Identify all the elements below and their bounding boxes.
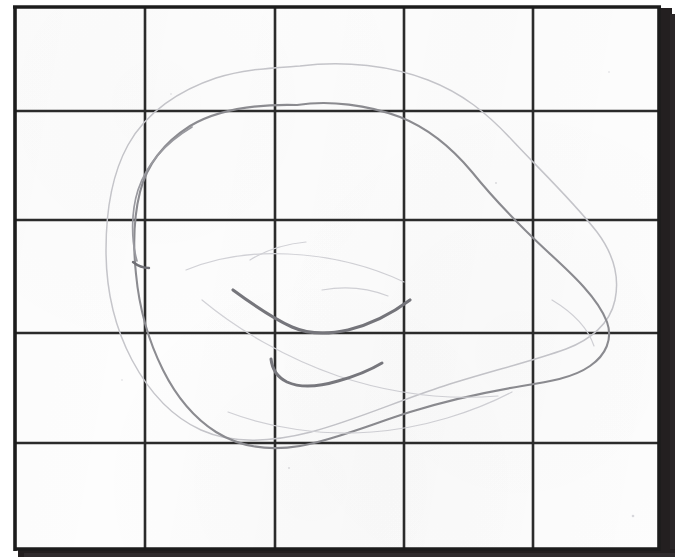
speckle [121, 379, 123, 381]
speckle [170, 93, 172, 95]
speckle [495, 182, 497, 184]
scanned-drawing-page: Hand-drawn blob outline on grid paper [0, 0, 679, 557]
speckle [608, 71, 610, 73]
scan-canvas [0, 0, 679, 557]
shadow-right-band-outer [670, 14, 675, 557]
speckle [632, 515, 635, 518]
shadow-bottom-band-outer [24, 553, 675, 557]
speckle [288, 467, 290, 469]
paper-sheet [12, 4, 662, 552]
